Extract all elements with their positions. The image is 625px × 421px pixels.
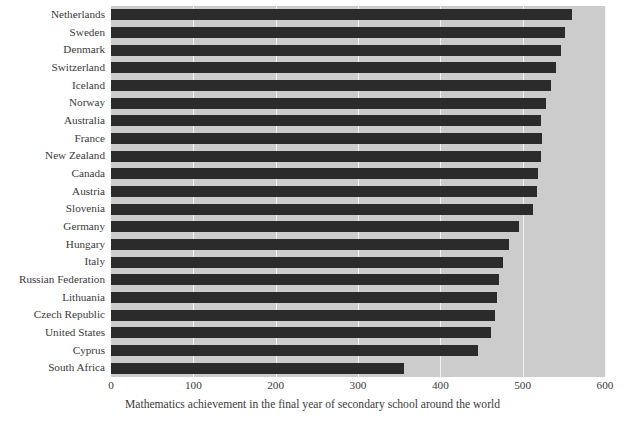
bar (111, 62, 556, 73)
plot-area (111, 6, 605, 377)
bar (111, 345, 478, 356)
y-axis-label: Switzerland (0, 62, 105, 73)
bar (111, 327, 491, 338)
bar-row (111, 77, 605, 95)
y-axis-label: South Africa (0, 362, 105, 373)
bar-row (111, 59, 605, 77)
bar-row (111, 236, 605, 254)
bar (111, 98, 546, 109)
bar-series (111, 6, 605, 377)
y-axis-label: Canada (0, 168, 105, 179)
bar (111, 115, 541, 126)
y-axis-label: Lithuania (0, 292, 105, 303)
bar (111, 310, 495, 321)
bar-row (111, 289, 605, 307)
bar-row (111, 147, 605, 165)
bar-row (111, 271, 605, 289)
y-axis-label: Iceland (0, 80, 105, 91)
bar-row (111, 253, 605, 271)
bar-row (111, 6, 605, 24)
bar-row (111, 306, 605, 324)
y-axis-label: Russian Federation (0, 274, 105, 285)
bar (111, 168, 538, 179)
y-axis-label: Germany (0, 221, 105, 232)
bar-row (111, 324, 605, 342)
bar-row (111, 359, 605, 377)
x-tick-label-600: 600 (597, 379, 614, 391)
y-axis-label: Norway (0, 97, 105, 108)
bar-row (111, 24, 605, 42)
bar-chart-figure: NetherlandsSwedenDenmarkSwitzerlandIcela… (0, 0, 625, 421)
bar (111, 221, 519, 232)
bar (111, 257, 503, 268)
y-axis-label: New Zealand (0, 150, 105, 161)
x-tick-label-200: 200 (267, 379, 284, 391)
bar (111, 27, 565, 38)
y-axis-label: Denmark (0, 44, 105, 55)
gridline-x-600 (605, 6, 606, 377)
x-tick-label-0: 0 (108, 379, 114, 391)
bar-row (111, 200, 605, 218)
bar-row (111, 94, 605, 112)
y-axis-label: Sweden (0, 27, 105, 38)
y-axis-label: United States (0, 327, 105, 338)
y-axis-label: Cyprus (0, 345, 105, 356)
y-axis-label: Czech Republic (0, 309, 105, 320)
bar (111, 133, 542, 144)
x-tick-label-100: 100 (185, 379, 202, 391)
x-tick-label-300: 300 (350, 379, 367, 391)
y-axis-label: Hungary (0, 239, 105, 250)
bar (111, 45, 561, 56)
bar-row (111, 183, 605, 201)
bar (111, 204, 533, 215)
x-tick-label-400: 400 (432, 379, 449, 391)
y-axis-label: Slovenia (0, 203, 105, 214)
bar-row (111, 41, 605, 59)
bar-row (111, 342, 605, 360)
x-axis-title: Mathematics achievement in the final yea… (0, 398, 625, 411)
y-axis-label: Australia (0, 115, 105, 126)
bar (111, 363, 404, 374)
bar (111, 274, 499, 285)
y-axis-category-labels: NetherlandsSwedenDenmarkSwitzerlandIcela… (0, 6, 105, 377)
x-axis-tick-labels: 0100200300400500600 (0, 379, 625, 399)
y-axis-label: France (0, 133, 105, 144)
bar (111, 80, 551, 91)
bar-row (111, 165, 605, 183)
bar-row (111, 218, 605, 236)
bar (111, 186, 537, 197)
bar-row (111, 112, 605, 130)
x-tick-label-500: 500 (514, 379, 531, 391)
y-axis-label: Netherlands (0, 9, 105, 20)
y-axis-label: Austria (0, 186, 105, 197)
y-axis-label: Italy (0, 256, 105, 267)
bar (111, 9, 572, 20)
bar-row (111, 130, 605, 148)
bar (111, 239, 509, 250)
bar (111, 151, 541, 162)
bar (111, 292, 497, 303)
